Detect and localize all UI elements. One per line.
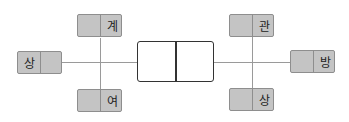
tag-left-left: 상 <box>17 51 62 74</box>
tag-left-bottom: 여 <box>77 89 122 112</box>
tag-label: 상 <box>18 52 40 73</box>
tag-divider <box>40 52 41 73</box>
tag-label: 계 <box>101 15 123 36</box>
tag-label: 방 <box>314 51 336 72</box>
center-box-divider <box>175 42 177 81</box>
tag-label: 관 <box>253 15 275 36</box>
left-vertical-connector <box>100 38 101 89</box>
tag-right-right: 방 <box>290 50 335 73</box>
tag-right-top: 관 <box>229 14 274 37</box>
center-box <box>137 41 214 82</box>
right-vertical-connector <box>252 37 253 88</box>
tag-label: 여 <box>101 90 123 111</box>
tag-label: 상 <box>253 89 275 110</box>
tag-left-top: 계 <box>77 14 122 37</box>
tag-right-bottom: 상 <box>229 88 274 111</box>
